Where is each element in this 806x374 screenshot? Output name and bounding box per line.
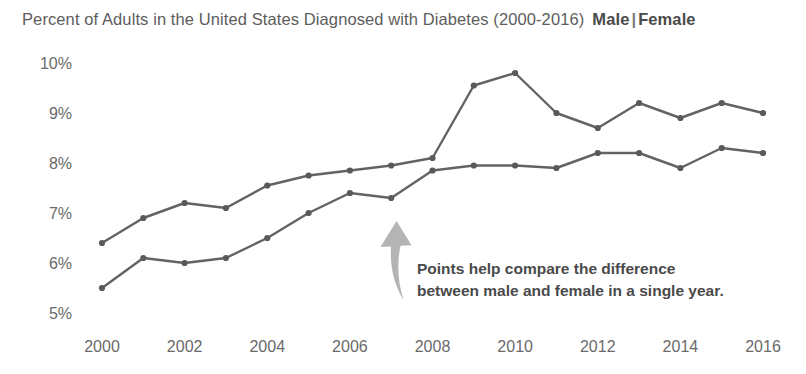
data-point[interactable] xyxy=(182,260,188,266)
data-point[interactable] xyxy=(677,165,683,171)
data-point[interactable] xyxy=(595,125,601,131)
data-point[interactable] xyxy=(223,205,229,211)
data-point[interactable] xyxy=(99,240,105,246)
y-axis-tick-6%: 6% xyxy=(49,255,72,272)
data-point[interactable] xyxy=(719,145,725,151)
data-point[interactable] xyxy=(99,285,105,291)
data-point[interactable] xyxy=(719,100,725,106)
annotation-line-2: between male and female in a single year… xyxy=(417,280,724,302)
curved-arrow-up-left-icon xyxy=(381,221,412,300)
data-point[interactable] xyxy=(636,150,642,156)
data-point[interactable] xyxy=(553,165,559,171)
y-axis-tick-9%: 9% xyxy=(49,105,72,122)
data-point[interactable] xyxy=(347,167,353,173)
annotation-arrow xyxy=(381,221,412,300)
x-axis-tick-2010: 2010 xyxy=(497,338,533,355)
y-axis-tick-8%: 8% xyxy=(49,155,72,172)
data-point[interactable] xyxy=(306,172,312,178)
data-point[interactable] xyxy=(677,115,683,121)
data-point[interactable] xyxy=(223,255,229,261)
data-point[interactable] xyxy=(512,162,518,168)
data-point[interactable] xyxy=(264,182,270,188)
data-point[interactable] xyxy=(595,150,601,156)
data-point[interactable] xyxy=(760,150,766,156)
data-point[interactable] xyxy=(306,210,312,216)
y-axis-tick-labels: 5%6%7%8%9%10% xyxy=(40,55,72,322)
data-point[interactable] xyxy=(182,200,188,206)
data-point[interactable] xyxy=(553,110,559,116)
plot-area: 5%6%7%8%9%10% 20002002200420062008201020… xyxy=(0,0,806,374)
x-axis-tick-2014: 2014 xyxy=(663,338,699,355)
data-point[interactable] xyxy=(347,190,353,196)
x-axis-tick-2000: 2000 xyxy=(84,338,120,355)
data-point[interactable] xyxy=(264,235,270,241)
x-axis-tick-2002: 2002 xyxy=(167,338,203,355)
x-axis-tick-2004: 2004 xyxy=(249,338,285,355)
diabetes-line-chart: Percent of Adults in the United States D… xyxy=(0,0,806,374)
y-axis-tick-5%: 5% xyxy=(49,305,72,322)
data-point[interactable] xyxy=(512,70,518,76)
x-axis-tick-2006: 2006 xyxy=(332,338,368,355)
data-point[interactable] xyxy=(388,162,394,168)
data-point[interactable] xyxy=(140,255,146,261)
data-point[interactable] xyxy=(471,162,477,168)
data-point[interactable] xyxy=(471,82,477,88)
y-axis-tick-7%: 7% xyxy=(49,205,72,222)
x-axis-tick-2016: 2016 xyxy=(745,338,781,355)
series-female xyxy=(99,70,766,246)
data-point[interactable] xyxy=(636,100,642,106)
x-axis-tick-2012: 2012 xyxy=(580,338,616,355)
x-axis-tick-2008: 2008 xyxy=(415,338,451,355)
data-point[interactable] xyxy=(388,195,394,201)
data-point[interactable] xyxy=(429,167,435,173)
data-point[interactable] xyxy=(760,110,766,116)
x-axis-tick-labels: 200020022004200620082010201220142016 xyxy=(84,338,781,355)
data-point[interactable] xyxy=(429,155,435,161)
data-point[interactable] xyxy=(140,215,146,221)
y-axis-tick-10%: 10% xyxy=(40,55,72,72)
annotation-text: Points help compare the difference betwe… xyxy=(417,258,724,303)
annotation-line-1: Points help compare the difference xyxy=(417,258,724,280)
